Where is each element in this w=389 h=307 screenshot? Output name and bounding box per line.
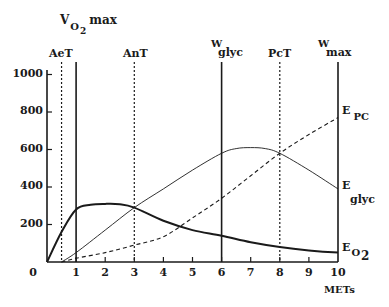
vo2max-label: VO2max [60, 14, 117, 26]
ant-label: AnT [123, 48, 148, 59]
wglyc-label: Wglyc [211, 38, 236, 60]
epc-label: EPC [342, 105, 369, 116]
x-tick-label: 3 [122, 267, 146, 278]
vo2max-v: V [60, 13, 69, 27]
wmax-label: Wmax [318, 38, 343, 60]
wmax-sub: max [326, 46, 351, 59]
wglyc-sub: glyc [218, 46, 243, 59]
y-tick-label: 1000 [3, 68, 43, 79]
curve-e-pc [62, 118, 339, 262]
x-tick-label: 8 [268, 267, 292, 278]
eo2-label: EO2 [342, 241, 369, 253]
x-tick-label: 10 [326, 267, 350, 278]
x-tick-label: 1 [64, 267, 88, 278]
x-tick-label: 5 [181, 267, 205, 278]
energy-chart: VO2max AeT AnT Wglyc PcT Wmax EPC Eglyc … [0, 0, 389, 307]
vo2max-max: max [89, 13, 117, 27]
axes [47, 70, 338, 262]
epc-e: E [342, 104, 350, 117]
pct-label: PcT [268, 48, 291, 59]
vo2max-o: O [70, 21, 79, 32]
eglyc-e: E [342, 179, 350, 192]
eo2-e: E [342, 241, 350, 254]
eglyc-label: Eglyc [342, 180, 367, 202]
x-tick-label: 7 [239, 267, 263, 278]
epc-sub: PC [353, 111, 368, 122]
y-tick-label: 800 [3, 105, 43, 116]
eo2-2: 2 [361, 249, 369, 263]
eglyc-sub: glyc [350, 193, 375, 206]
x-axis-label: METs [324, 285, 355, 295]
y-tick-label: 600 [3, 143, 43, 154]
y-tick-label: 400 [3, 180, 43, 191]
eo2-o: O [351, 247, 360, 258]
x-tick-label: 0 [21, 267, 45, 278]
curves [47, 118, 338, 262]
x-tick-label: 4 [151, 267, 175, 278]
x-tick-label: 9 [297, 267, 321, 278]
aet-label: AeT [49, 48, 73, 59]
x-tick-label: 2 [93, 267, 117, 278]
vo2max-2: 2 [80, 26, 86, 36]
curve-e-o2 [47, 204, 338, 262]
x-tick-label: 6 [210, 267, 234, 278]
y-tick-label: 200 [3, 218, 43, 229]
